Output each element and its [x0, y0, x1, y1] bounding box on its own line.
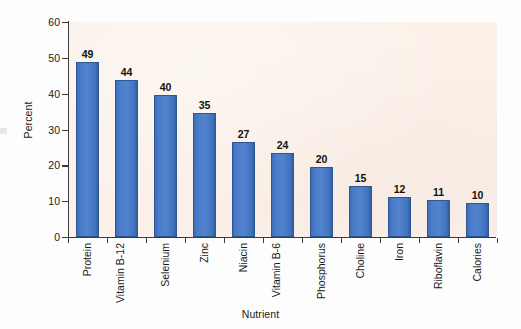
- x-category-label-line: Calories: [472, 243, 484, 282]
- x-tick-mark: [458, 238, 459, 243]
- bar-value-label: 11: [419, 187, 459, 198]
- bar: [76, 62, 99, 237]
- x-category-label-line: Phosphorus: [316, 243, 328, 299]
- bar-value-label: 15: [341, 173, 381, 184]
- x-tick-mark: [341, 238, 342, 243]
- x-category-label-line: Niacin: [238, 243, 250, 272]
- y-tick-mark: [62, 22, 68, 23]
- y-axis-title: Percent: [22, 90, 34, 150]
- bar-value-label: 27: [224, 129, 264, 140]
- x-category-label-inner: Iron: [394, 243, 406, 261]
- x-category-label-inner: VitaminB-12: [115, 243, 127, 303]
- x-tick-mark: [497, 238, 498, 243]
- bar: [193, 113, 216, 237]
- x-tick-mark: [302, 238, 303, 243]
- x-category-label-line: B-6: [271, 243, 283, 259]
- y-tick-label: 30: [34, 125, 60, 136]
- bar-value-label: 24: [263, 140, 303, 151]
- x-category-label-line: Choline: [355, 243, 367, 279]
- bar-chart-figure: 0102030405060 4944403527242015121110 Pro…: [0, 0, 521, 329]
- x-tick-mark: [107, 238, 108, 243]
- bar-value-label: 40: [146, 82, 186, 93]
- y-tick-label: 20: [34, 160, 60, 171]
- x-category-label-inner: Niacin: [238, 243, 250, 272]
- x-tick-mark: [224, 238, 225, 243]
- x-category-label-line: Zinc: [199, 243, 211, 263]
- x-tick-mark: [185, 238, 186, 243]
- x-tick-mark: [263, 238, 264, 243]
- x-category-label-line: Selenium: [160, 243, 172, 287]
- y-tick-mark: [62, 94, 68, 95]
- y-tick-label: 50: [34, 53, 60, 64]
- bar: [310, 167, 333, 237]
- y-tick-label: 10: [34, 196, 60, 207]
- y-tick-label: 0: [34, 232, 60, 243]
- bar-value-label: 20: [302, 154, 342, 165]
- x-tick-mark: [380, 238, 381, 243]
- bar: [349, 186, 372, 237]
- bar: [466, 203, 489, 237]
- x-tick-mark: [68, 238, 69, 243]
- x-category-label-inner: Riboflavin: [433, 243, 445, 289]
- x-category-label-inner: Phosphorus: [316, 243, 328, 299]
- x-tick-mark: [419, 238, 420, 243]
- x-axis-title: Nutrient: [0, 308, 521, 320]
- bar: [232, 142, 255, 237]
- x-category-label-inner: Protein: [82, 243, 94, 276]
- bar: [115, 80, 138, 237]
- bar: [427, 200, 450, 237]
- bar-value-label: 35: [185, 100, 225, 111]
- bar-value-label: 49: [68, 49, 108, 60]
- x-category-label-inner: VitaminB-6: [271, 243, 283, 297]
- x-category-label-inner: Choline: [355, 243, 367, 279]
- x-category-label-line: Vitamin: [115, 268, 127, 303]
- x-category-label-inner: Calories: [472, 243, 484, 282]
- x-category-label-line: Vitamin: [271, 262, 283, 297]
- x-category-label-inner: Selenium: [160, 243, 172, 287]
- y-tick-mark: [62, 201, 68, 202]
- x-category-label-inner: Zinc: [199, 243, 211, 263]
- x-tick-mark: [146, 238, 147, 243]
- y-tick-label: 40: [34, 89, 60, 100]
- bar-value-label: 44: [107, 67, 147, 78]
- y-tick-mark: [62, 130, 68, 131]
- x-category-label-line: Protein: [82, 243, 94, 276]
- y-tick-label: 60: [34, 17, 60, 28]
- x-axis-line: [68, 237, 496, 238]
- x-category-label-line: B-12: [115, 243, 127, 265]
- x-category-label-line: Iron: [394, 243, 406, 261]
- bar: [271, 153, 294, 237]
- bar: [388, 197, 411, 238]
- bar: [154, 95, 177, 237]
- x-category-label-line: Riboflavin: [433, 243, 445, 289]
- bar-value-label: 12: [380, 184, 420, 195]
- y-tick-mark: [62, 165, 68, 166]
- bar-value-label: 10: [458, 190, 498, 201]
